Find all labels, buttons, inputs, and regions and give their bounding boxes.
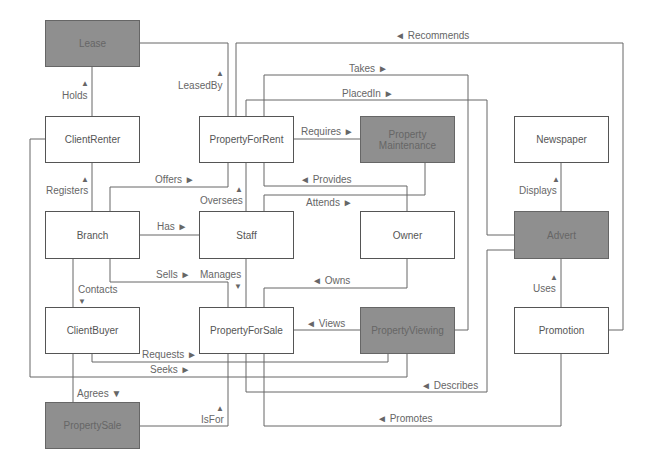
rel-isfor-arrow: ▲ (216, 403, 224, 414)
rel-holds-arrow: ▲ (81, 78, 89, 89)
rel-registers: Registers (46, 185, 88, 196)
entity-propertymaintenance[interactable]: Property Maintenance (360, 116, 455, 163)
rel-requests: Requests ► (142, 349, 197, 360)
rel-offers: Offers ► (155, 174, 195, 185)
rel-sells: Sells ► (156, 269, 190, 280)
rel-oversees: Oversees (200, 195, 243, 206)
rel-registers-arrow: ▲ (81, 174, 89, 185)
entity-clientbuyer[interactable]: ClientBuyer (45, 307, 140, 354)
entity-clientrenter[interactable]: ClientRenter (45, 116, 140, 163)
rel-describes: ◄ Describes (421, 380, 478, 391)
rel-displays: Displays (519, 185, 557, 196)
rel-manages: Manages (200, 269, 241, 280)
entity-advert[interactable]: Advert (514, 211, 609, 259)
rel-recommends: ◄ Recommends (395, 30, 469, 41)
entity-branch[interactable]: Branch (45, 211, 140, 259)
rel-provides: ◄ Provides (300, 174, 352, 185)
rel-contacts: Contacts (78, 284, 117, 295)
rel-agrees: Agrees ▼ (77, 388, 121, 399)
entity-owner[interactable]: Owner (360, 211, 455, 259)
rel-uses: Uses (533, 283, 556, 294)
er-diagram: Lease ClientRenter PropertyForRent Prope… (0, 0, 649, 456)
rel-leasedby: LeasedBy (178, 80, 222, 91)
entity-staff[interactable]: Staff (199, 211, 294, 259)
rel-uses-arrow: ▲ (550, 272, 558, 283)
rel-placedin: PlacedIn ► (342, 88, 394, 99)
entity-propertysale[interactable]: PropertySale (45, 402, 140, 449)
rel-attends: Attends ► (306, 197, 353, 208)
entity-newspaper[interactable]: Newspaper (514, 116, 609, 163)
rel-promotes: ◄ Promotes (377, 413, 432, 424)
entity-promotion[interactable]: Promotion (514, 307, 609, 354)
entity-propertyviewing[interactable]: PropertyViewing (360, 307, 455, 354)
rel-requires: Requires ► (301, 126, 354, 137)
entity-propertyforrent[interactable]: PropertyForRent (199, 116, 294, 163)
rel-holds: Holds (62, 90, 88, 101)
rel-has: Has ► (157, 221, 187, 232)
entity-propertyforsale[interactable]: PropertyForSale (199, 307, 294, 354)
rel-owns: ◄ Owns (312, 275, 350, 286)
rel-leasedby-arrow: ▲ (216, 68, 224, 79)
entity-lease[interactable]: Lease (45, 20, 140, 67)
rel-manages-arrow: ▼ (234, 281, 242, 292)
rel-takes: Takes ► (349, 63, 388, 74)
rel-oversees-arrow: ▲ (235, 184, 243, 195)
rel-contacts-arrow: ▼ (78, 296, 86, 307)
rel-displays-arrow: ▲ (552, 174, 560, 185)
rel-views: ◄ Views (306, 318, 345, 329)
rel-seeks: Seeks ► (150, 364, 190, 375)
rel-isfor: IsFor (201, 414, 224, 425)
